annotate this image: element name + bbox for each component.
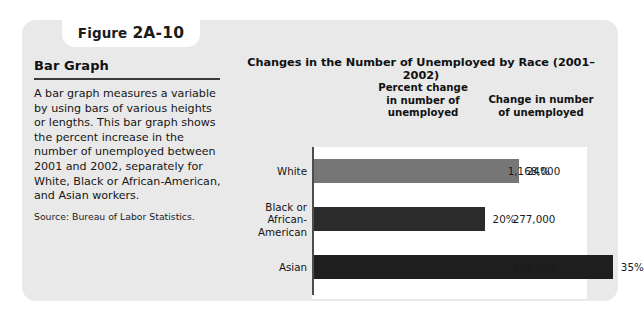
absolute-change-white: 1,168,000 <box>474 165 594 177</box>
figure-label-word: Figure <box>78 25 128 41</box>
column-header-absolute-change: Change in number of unemployed <box>474 94 608 119</box>
category-label-line: African- <box>233 213 307 225</box>
figure-label-number: 2A-10 <box>132 24 184 42</box>
chart-region: Changes in the Number of Unemployed by R… <box>234 56 608 82</box>
figure-number-badge: Figure 2A-10 <box>62 19 200 47</box>
category-label-line: American <box>233 226 307 238</box>
explanation-panel: Bar Graph A bar graph measures a variabl… <box>32 58 228 223</box>
category-label-line: Asian <box>233 261 307 273</box>
plot-area: White 24% 1,168,000 Black or African- Am… <box>312 147 587 299</box>
category-label-asian: Asian <box>233 261 307 273</box>
header-change-line-2: of unemployed <box>474 107 608 120</box>
category-label-black-or-african-american: Black or African- American <box>233 201 307 238</box>
bar-black-or-african-american <box>314 207 485 231</box>
category-label-line: Black or <box>233 201 307 213</box>
category-label-white: White <box>233 165 307 177</box>
header-percent-line-2: in number of <box>366 95 480 108</box>
panel-title: Bar Graph <box>32 58 228 78</box>
absolute-change-asian: 101,000 <box>474 261 594 273</box>
header-percent-line-1: Percent change <box>366 82 480 95</box>
column-header-percent-change: Percent change in number of unemployed <box>366 82 480 120</box>
panel-body-text: A bar graph measures a variable by using… <box>32 87 224 204</box>
figure-card: Figure 2A-10 Bar Graph A bar graph measu… <box>22 20 618 301</box>
chart-column-headers: Percent change in number of unemployed C… <box>234 82 608 126</box>
header-percent-line-3: unemployed <box>366 107 480 120</box>
absolute-change-black-or-african-american: 277,000 <box>474 213 594 225</box>
chart-title: Changes in the Number of Unemployed by R… <box>234 56 608 82</box>
title-divider <box>34 78 220 80</box>
header-change-line-1: Change in number <box>474 94 608 107</box>
category-label-line: White <box>233 165 307 177</box>
bar-value-asian: 35% <box>621 261 644 273</box>
source-note: Source: Bureau of Labor Statistics. <box>32 211 228 223</box>
